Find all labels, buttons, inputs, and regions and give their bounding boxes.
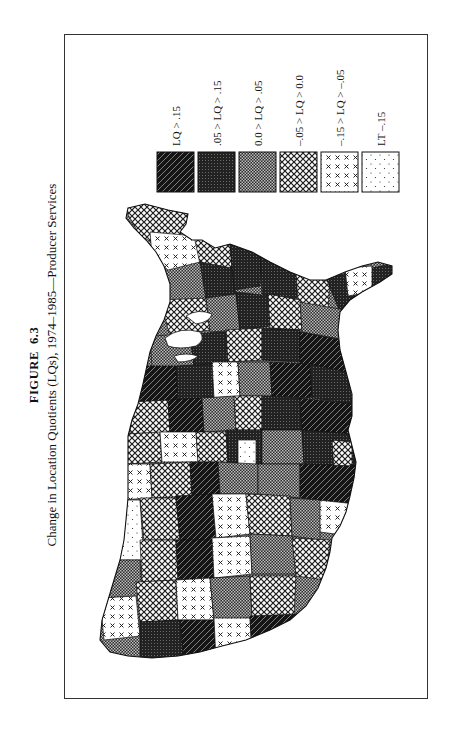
region [230, 244, 262, 290]
legend-swatch-c3 [239, 152, 276, 192]
region [150, 462, 192, 498]
region [140, 620, 184, 660]
region [202, 396, 236, 432]
region [176, 540, 214, 580]
legend-item-c4: –.05 > LQ > 0.0 [280, 74, 317, 192]
region [238, 440, 256, 466]
region [212, 362, 240, 398]
legend-label-c3: 0.0 > LQ > .05 [252, 80, 264, 146]
region [190, 462, 220, 496]
region [238, 362, 272, 396]
legend-label-c2: .05 > LQ > .15 [211, 80, 223, 146]
region [126, 432, 162, 464]
region [300, 464, 356, 504]
map-legend: LQ > .15 .05 > LQ > .15 0.0 > LQ > .05 –… [157, 69, 399, 192]
legend-label-c1: LQ > .15 [170, 105, 182, 146]
region [176, 578, 214, 620]
region [212, 494, 250, 538]
region [100, 596, 140, 640]
region [246, 494, 292, 536]
legend-item-c2: .05 > LQ > .15 [198, 80, 235, 192]
region [160, 432, 198, 462]
region [262, 328, 300, 362]
region [268, 294, 302, 330]
region [206, 294, 240, 332]
region [140, 540, 178, 582]
legend-item-c3: 0.0 > LQ > .05 [239, 80, 276, 192]
region [210, 576, 252, 620]
region [214, 618, 252, 660]
legend-label-c6: LT –.15 [375, 111, 387, 146]
region [218, 462, 258, 494]
region [176, 494, 216, 540]
legend-item-c5: –.15 > LQ > –.05 [321, 69, 358, 192]
region [130, 400, 170, 434]
region [262, 396, 302, 430]
region [200, 262, 236, 300]
region [300, 398, 352, 434]
region [196, 432, 228, 462]
legend-item-c6: LT –.15 [362, 111, 399, 192]
region [168, 398, 204, 432]
region [290, 498, 320, 540]
region [140, 498, 180, 540]
region [258, 464, 300, 498]
legend-swatch-c4 [280, 152, 317, 192]
legend-label-c5: –.15 > LQ > –.05 [334, 69, 346, 147]
region [118, 464, 152, 500]
region [136, 580, 178, 622]
region [250, 576, 296, 618]
legend-swatch-c5 [321, 152, 358, 192]
legend-swatch-c2 [198, 152, 235, 192]
region [270, 362, 312, 398]
region [262, 430, 304, 464]
legend-swatch-c1 [157, 152, 194, 192]
choropleth-map: LQ > .15 .05 > LQ > .15 0.0 > LQ > .05 –… [0, 0, 450, 730]
legend-label-c4: –.05 > LQ > 0.0 [293, 74, 305, 147]
region [176, 364, 214, 400]
legend-item-c1: LQ > .15 [157, 105, 194, 192]
region [234, 396, 262, 430]
region [212, 536, 252, 578]
region [180, 620, 216, 660]
region [100, 560, 142, 598]
region [250, 534, 296, 574]
region [226, 328, 262, 362]
legend-swatch-c6 [362, 152, 399, 192]
region [236, 292, 270, 330]
